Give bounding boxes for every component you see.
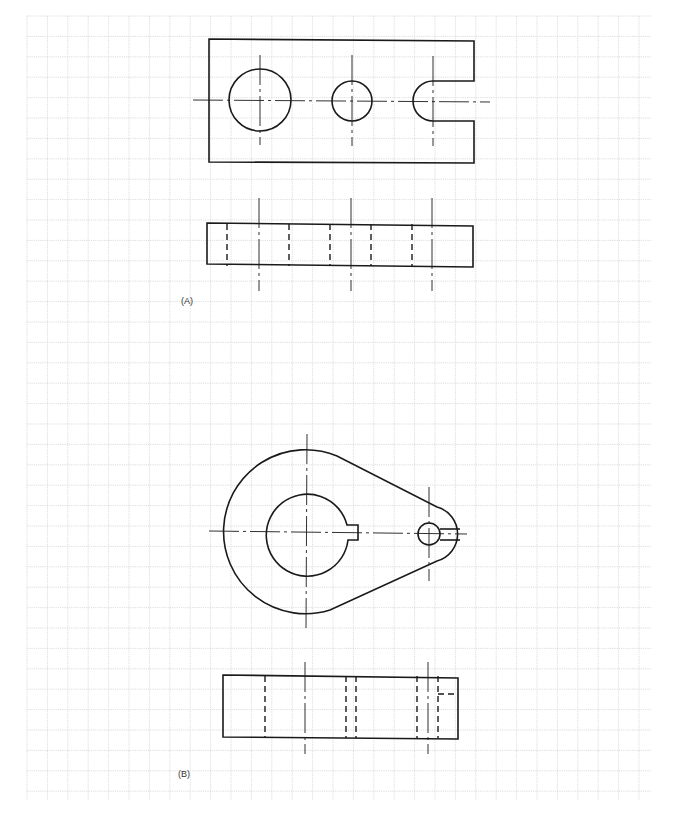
view-b-centerline-main bbox=[306, 434, 307, 630]
view-b-front-outline bbox=[223, 675, 458, 739]
drawing-sheet bbox=[0, 0, 676, 816]
view-a-front bbox=[207, 198, 473, 291]
view-a-top bbox=[193, 39, 490, 163]
view-b-bore-with-keyway bbox=[266, 494, 358, 576]
view-a-horizontal-centerline bbox=[193, 100, 490, 102]
view-a-label: (A) bbox=[181, 296, 193, 306]
view-b-top bbox=[209, 434, 467, 630]
graph-paper-grid bbox=[27, 16, 651, 800]
view-b-label: (B) bbox=[178, 769, 190, 779]
view-b-front bbox=[223, 662, 458, 754]
view-b-horizontal-centerline bbox=[209, 531, 467, 534]
